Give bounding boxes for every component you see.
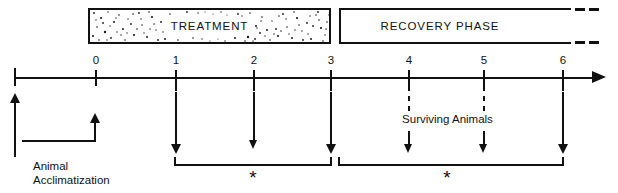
- sampling-arrow-2-stem: [253, 92, 255, 142]
- sampling-arrow-4-head-icon: [404, 144, 412, 153]
- axis-tick-label-4: 4: [399, 54, 419, 66]
- sampling-arrow-1-head-icon: [171, 144, 181, 154]
- asterisk-recovery: *: [432, 168, 462, 187]
- sampling-arrow-6-head-icon: [558, 144, 568, 154]
- treatment-label: TREATMENT: [164, 18, 256, 35]
- treatment-label-container: TREATMENT: [90, 10, 329, 42]
- axis-tick-3: [330, 70, 332, 86]
- acclimatization-caption: Animal Acclimatization: [33, 160, 110, 187]
- sampling-arrow-2-head-icon: [249, 140, 257, 149]
- acclimatization-caption-line2: Acclimatization: [33, 174, 110, 188]
- recovery-dash-bottom-1: [575, 41, 585, 44]
- acclimatization-bracket-horizontal: [22, 140, 96, 142]
- treatment-phase-box: TREATMENT: [88, 8, 331, 44]
- bracket-recovery-right-tip: [562, 157, 564, 165]
- axis-tick-label-0: 0: [86, 54, 106, 66]
- acclimatization-caption-line1: Animal: [33, 160, 110, 174]
- recovery-dash-top-1: [575, 8, 585, 11]
- recovery-phase-label: RECOVERY PHASE: [381, 20, 500, 32]
- surviving-animals-label: Surviving Animals: [385, 113, 510, 125]
- axis-tick-4: [408, 70, 410, 86]
- bracket-treatment-right-tip: [330, 157, 332, 165]
- sampling-arrow-3-head-icon: [326, 144, 336, 154]
- recovery-dash-top-2: [589, 8, 599, 11]
- bracket-recovery-left-tip: [338, 157, 340, 165]
- sampling-arrow-3-stem: [330, 92, 332, 146]
- bracket-treatment-left-tip: [174, 157, 176, 165]
- tick-drop-dash-4: [408, 86, 410, 112]
- sampling-arrow-6-stem: [562, 92, 564, 146]
- asterisk-treatment: *: [238, 168, 268, 187]
- timeline-diagram: TREATMENT RECOVERY PHASE 0 1 2 3 4 5 6: [0, 0, 618, 193]
- sampling-arrow-5-head-icon: [479, 144, 487, 153]
- axis-tick-5: [483, 70, 485, 86]
- bracket-recovery-horizontal: [338, 164, 564, 166]
- recovery-label-container: RECOVERY PHASE: [341, 10, 571, 42]
- axis-tick-label-2: 2: [244, 54, 264, 66]
- axis-tick-label-5: 5: [474, 54, 494, 66]
- axis-tick-2: [253, 70, 255, 86]
- recovery-phase-box: RECOVERY PHASE: [339, 8, 571, 44]
- bracket-treatment-horizontal: [174, 164, 332, 166]
- tick-drop-dash-5: [483, 86, 485, 112]
- acclimatization-left-arrow-stem: [14, 102, 16, 157]
- axis-tick-6: [562, 70, 564, 86]
- axis-arrowhead-icon: [592, 71, 606, 83]
- axis-tick-origin: [14, 68, 16, 86]
- time-axis-line: [14, 77, 600, 79]
- acclimatization-right-arrow-head-icon: [90, 113, 100, 123]
- axis-tick-0: [95, 70, 97, 86]
- axis-tick-label-3: 3: [321, 54, 341, 66]
- acclimatization-right-arrow-stem: [94, 122, 96, 142]
- axis-tick-label-6: 6: [553, 54, 573, 66]
- recovery-dash-bottom-2: [589, 41, 599, 44]
- axis-tick-label-1: 1: [166, 54, 186, 66]
- axis-tick-1: [175, 70, 177, 86]
- acclimatization-left-arrow-head-icon: [10, 93, 20, 103]
- sampling-arrow-1-stem: [175, 92, 177, 146]
